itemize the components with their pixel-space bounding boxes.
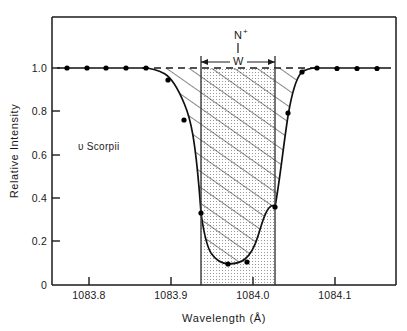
data-point bbox=[143, 65, 148, 70]
data-point bbox=[334, 66, 339, 71]
x-axis-tick-labels: 1083.8 1083.9 1084.0 1084.1 bbox=[72, 289, 351, 301]
y-tick-label: 0.2 bbox=[32, 235, 47, 247]
data-point bbox=[272, 204, 277, 209]
x-tick-label: 1084.1 bbox=[318, 289, 351, 301]
data-point bbox=[198, 210, 203, 215]
x-axis-title: Wavelength (Å) bbox=[182, 312, 266, 324]
y-tick-label: 0.6 bbox=[32, 149, 47, 161]
data-point bbox=[123, 65, 128, 70]
y-axis-tick-labels: 1.0 0.8 0.6 0.4 0.2 0 bbox=[32, 62, 47, 291]
object-label: υ Scorpii bbox=[78, 141, 120, 152]
data-point bbox=[299, 69, 304, 74]
data-point bbox=[374, 66, 379, 71]
y-axis-title: Relative Intensity bbox=[8, 104, 20, 199]
ion-superscript-label: + bbox=[243, 27, 248, 36]
x-tick-label: 1083.9 bbox=[154, 289, 187, 301]
data-point bbox=[314, 65, 319, 70]
data-point bbox=[285, 110, 290, 115]
data-point bbox=[64, 65, 69, 70]
width-label: W bbox=[233, 55, 244, 67]
data-point bbox=[165, 77, 170, 82]
figure-container: N + W υ Scorpii bbox=[0, 0, 407, 331]
y-tick-label: 1.0 bbox=[32, 62, 47, 74]
data-point bbox=[103, 65, 108, 70]
ion-label: N bbox=[234, 29, 242, 41]
data-point bbox=[84, 65, 89, 70]
data-point bbox=[181, 117, 186, 122]
y-tick-label: 0 bbox=[41, 279, 47, 291]
data-point bbox=[225, 261, 230, 266]
y-tick-label: 0.8 bbox=[32, 105, 47, 117]
x-tick-label: 1084.0 bbox=[236, 289, 269, 301]
y-tick-label: 0.4 bbox=[32, 192, 47, 204]
data-point bbox=[244, 259, 249, 264]
x-tick-label: 1083.8 bbox=[72, 289, 105, 301]
data-point bbox=[354, 66, 359, 71]
absorption-line-chart: N + W υ Scorpii bbox=[0, 0, 407, 331]
